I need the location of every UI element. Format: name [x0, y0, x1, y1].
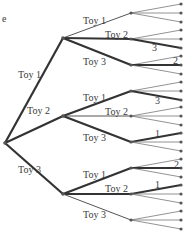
level2-label: Toy 1: [83, 16, 106, 26]
level2-label: Toy 2: [105, 107, 128, 117]
tree-diagram: [0, 0, 185, 239]
level2-label: Toy 1: [83, 170, 106, 180]
edge-annotation: 3: [155, 96, 160, 106]
edge-annotation: 3: [152, 43, 157, 53]
level2-label: Toy 3: [83, 133, 106, 143]
edge-annotation: 1: [155, 129, 160, 139]
level2-label: Toy 2: [105, 184, 128, 194]
edge-annotation: 2: [173, 56, 178, 66]
edge-annotation: 1: [155, 180, 160, 190]
cropped-text-fragment: e: [2, 13, 6, 24]
level1-label-toy3: Toy 3: [18, 165, 41, 175]
leaf-edges: [131, 4, 181, 229]
level2-label: Toy 3: [83, 210, 106, 220]
level2-label: Toy 1: [83, 93, 106, 103]
edge-annotation: 2: [174, 160, 179, 170]
level2-label: Toy 2: [105, 30, 128, 40]
level1-label-toy2: Toy 2: [27, 106, 50, 116]
leaf-nodes: [179, 2, 182, 230]
level2-label: Toy 3: [83, 57, 106, 67]
level1-label-toy1: Toy 1: [18, 70, 41, 80]
